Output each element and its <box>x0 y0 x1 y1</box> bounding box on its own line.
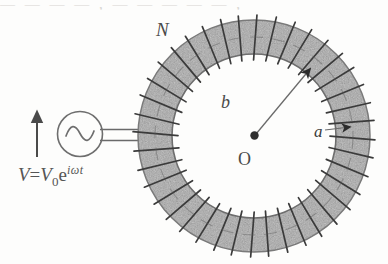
formula-exponent: iωt <box>67 163 84 177</box>
label-center-O: O <box>238 150 251 168</box>
formula-base: e <box>58 164 66 185</box>
label-outer-radius-b: b <box>221 93 230 111</box>
ac-source-symbol <box>58 112 103 157</box>
sine-wave-icon <box>66 127 94 141</box>
formula-lhs: V <box>18 164 30 185</box>
formula-equals: = <box>30 164 41 185</box>
voltage-formula: V=V0eiωt <box>18 163 84 190</box>
toroid-diagram-svg <box>0 0 388 264</box>
label-inner-radius-a: a <box>314 123 323 140</box>
formula-amplitude: V <box>40 164 52 185</box>
label-turns-N: N <box>156 20 169 39</box>
voltage-direction-arrow-icon <box>31 110 43 158</box>
center-dot <box>250 131 258 139</box>
figure-toroid-ac-source: — — — — , — — — — — , <box>0 0 388 264</box>
